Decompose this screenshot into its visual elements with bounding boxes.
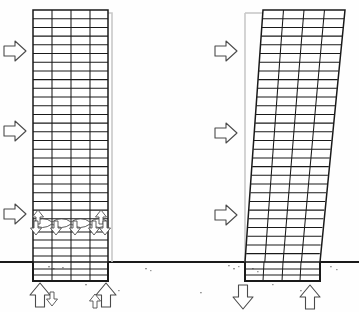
diagram-canvas: Seismic response comparison of two multi… [0,0,359,312]
structural-diagram-svg [0,0,359,312]
